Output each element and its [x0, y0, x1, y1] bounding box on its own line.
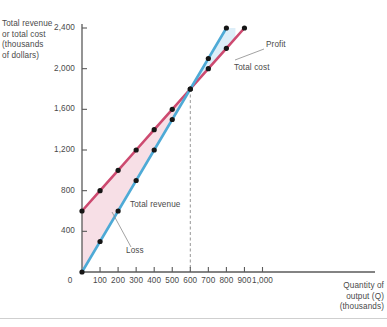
break-even-chart: Total revenue or total cost (thousands o…	[0, 0, 387, 327]
page-divider	[0, 318, 387, 319]
y-tick-label: 0	[64, 276, 76, 285]
series-data-points	[79, 25, 247, 274]
x-tick-label: 1,000	[250, 276, 276, 285]
y-tick-label: 800	[39, 186, 75, 195]
label-loss: Loss	[126, 246, 144, 255]
y-tick-label: 1,600	[39, 104, 75, 113]
label-total-cost: Total cost	[234, 63, 270, 72]
y-tick-label: 2,000	[39, 64, 75, 73]
series-lines	[82, 28, 244, 272]
y-tick-label: 400	[39, 226, 75, 235]
label-profit: Profit	[266, 40, 286, 49]
axis-lines	[82, 24, 375, 272]
y-tick-label: 1,200	[39, 145, 75, 154]
y-tick-label: 2,400	[39, 23, 75, 32]
label-total-revenue: Total revenue	[130, 200, 180, 209]
